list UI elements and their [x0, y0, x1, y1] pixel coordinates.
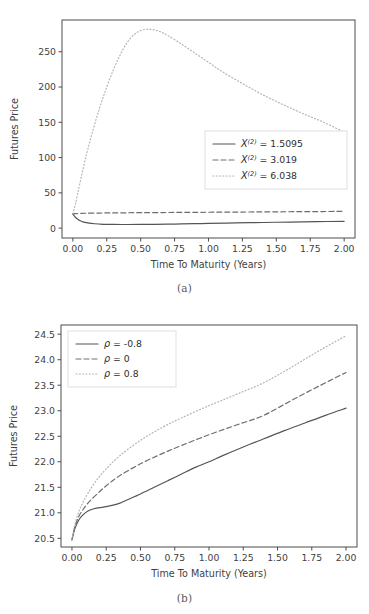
figure-container: 0.000.250.500.751.001.251.501.752.000501… — [0, 0, 369, 614]
x-axis-label: Time To Maturity (Years) — [150, 568, 267, 579]
panel-b: 0.000.250.500.751.001.251.501.752.0020.5… — [0, 307, 369, 614]
caption-a: (a) — [0, 282, 369, 294]
x-tick-label: 0.00 — [62, 552, 83, 563]
legend-entry-label: ρ = 0.8 — [104, 368, 139, 379]
y-tick-label: 0 — [50, 223, 56, 234]
x-tick-label: 2.00 — [334, 243, 355, 254]
chart-b: 0.000.250.500.751.001.251.501.752.0020.5… — [0, 307, 369, 592]
x-tick-label: 0.50 — [130, 552, 151, 563]
x-tick-label: 0.50 — [130, 243, 151, 254]
x-tick-label: 0.25 — [96, 552, 117, 563]
y-tick-label: 250 — [38, 46, 56, 57]
y-tick-label: 21.0 — [34, 507, 55, 518]
y-tick-label: 200 — [38, 81, 56, 92]
y-tick-label: 150 — [38, 117, 56, 128]
y-tick-label: 23.0 — [34, 405, 55, 416]
data-series-line — [72, 408, 346, 540]
x-tick-label: 0.00 — [63, 243, 84, 254]
legend-entry-label: ρ = -0.8 — [104, 338, 142, 349]
x-tick-label: 0.25 — [96, 243, 117, 254]
x-tick-label: 2.00 — [336, 552, 357, 563]
x-tick-label: 1.00 — [199, 552, 220, 563]
caption-b: (b) — [0, 592, 369, 604]
panel-a: 0.000.250.500.751.001.251.501.752.000501… — [0, 0, 369, 307]
y-tick-label: 24.0 — [34, 354, 55, 365]
y-tick-label: 24.5 — [34, 329, 55, 340]
y-tick-label: 50 — [44, 187, 56, 198]
y-tick-label: 23.5 — [34, 380, 55, 391]
x-tick-label: 1.50 — [266, 243, 287, 254]
y-axis-label: Futures Price — [9, 98, 20, 160]
y-tick-label: 22.5 — [34, 431, 55, 442]
x-tick-label: 1.00 — [198, 243, 219, 254]
x-tick-label: 1.25 — [233, 552, 254, 563]
y-tick-label: 21.5 — [34, 482, 55, 493]
x-tick-label: 1.50 — [267, 552, 288, 563]
legend-entry-label: ρ = 0 — [104, 353, 130, 364]
y-tick-label: 22.0 — [34, 456, 55, 467]
y-tick-label: 20.5 — [34, 533, 55, 544]
y-axis-label: Futures Price — [8, 405, 19, 467]
x-tick-label: 0.75 — [164, 243, 185, 254]
data-series-line — [72, 372, 346, 539]
data-series-line — [73, 214, 344, 225]
x-tick-label: 1.75 — [301, 552, 322, 563]
x-axis-label: Time To Maturity (Years) — [150, 259, 267, 270]
x-tick-label: 1.25 — [232, 243, 253, 254]
chart-a: 0.000.250.500.751.001.251.501.752.000501… — [0, 0, 369, 282]
y-tick-label: 100 — [38, 152, 56, 163]
x-tick-label: 0.75 — [164, 552, 185, 563]
x-tick-label: 1.75 — [300, 243, 321, 254]
data-series-line — [73, 211, 344, 213]
